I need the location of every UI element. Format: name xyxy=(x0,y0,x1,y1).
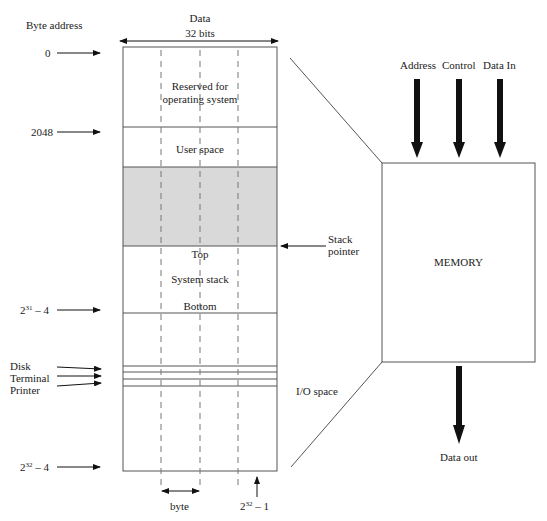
stack-pointer-label-2: pointer xyxy=(328,245,359,257)
printer-arrow xyxy=(57,383,101,386)
printer-label: Printer xyxy=(10,384,40,396)
zoom-line-top xyxy=(290,58,382,163)
user-space-label: User space xyxy=(123,143,277,155)
system-stack-label: System stack xyxy=(123,273,277,285)
stack-pointer-label-1: Stack xyxy=(328,233,352,245)
last-address-label: 232 – 1 xyxy=(240,500,269,512)
address-0: 0 xyxy=(45,47,51,59)
address-2-31-minus-4: 231 – 4 xyxy=(20,304,49,316)
width-label: 32 bits xyxy=(170,27,230,39)
data-out-label: Data out xyxy=(440,451,478,463)
disk-arrow xyxy=(57,367,101,369)
data-in-input-arrow xyxy=(494,79,506,158)
stack-top-label: Top xyxy=(123,248,277,260)
reserved-label-2: operating system xyxy=(123,93,277,105)
terminal-label: Terminal xyxy=(10,372,50,384)
address-2-32-minus-4: 232 – 4 xyxy=(20,461,49,473)
byte-label: byte xyxy=(170,500,189,512)
disk-label: Disk xyxy=(10,360,31,372)
reserved-label-1: Reserved for xyxy=(123,80,277,92)
control-input-label: Control xyxy=(442,59,476,71)
address-2048: 2048 xyxy=(31,126,53,138)
data-out-arrow xyxy=(453,366,465,444)
zoom-line-bottom xyxy=(291,362,382,467)
address-input-arrow xyxy=(411,79,423,158)
address-input-label: Address xyxy=(400,59,436,71)
stack-bottom-label: Bottom xyxy=(123,300,277,312)
memory-label: MEMORY xyxy=(382,256,535,268)
control-input-arrow xyxy=(453,79,465,158)
io-space-label: I/O space xyxy=(296,385,338,397)
byte-address-label: Byte address xyxy=(26,19,83,31)
data-label: Data xyxy=(170,12,230,24)
data-in-input-label: Data In xyxy=(483,59,516,71)
